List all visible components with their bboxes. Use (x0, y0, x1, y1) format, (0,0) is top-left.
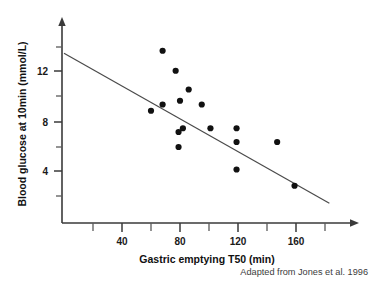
data-point (291, 183, 297, 189)
x-ticks-group (93, 223, 325, 232)
x-axis-title: Gastric emptying T50 (min) (139, 253, 274, 265)
data-point (186, 86, 192, 92)
data-point (175, 129, 181, 135)
data-points-group (148, 48, 298, 189)
y-axis-title: Blood glucose at 10min (mmol/L) (16, 41, 28, 206)
x-tick-label-40: 40 (116, 236, 128, 247)
axes-group (58, 17, 359, 227)
y-tick-label-4: 4 (42, 166, 48, 177)
regression-trendline (64, 53, 329, 203)
data-point (233, 139, 239, 145)
data-point (274, 139, 280, 145)
data-point (173, 68, 179, 74)
data-point (233, 166, 239, 172)
data-point (233, 125, 239, 131)
chart-figure: 12 8 4 40 80 120 160 Gastric em (0, 0, 374, 288)
y-tick-label-12: 12 (37, 66, 49, 77)
data-point (177, 98, 183, 104)
y-ticks-group (54, 47, 62, 196)
data-point (199, 101, 205, 107)
x-axis-arrow-icon (350, 219, 359, 226)
data-point (160, 48, 166, 54)
data-point (175, 144, 181, 150)
x-tick-label-80: 80 (174, 236, 186, 247)
x-tick-label-120: 120 (230, 236, 247, 247)
source-caption: Adapted from Jones et al. 1996 (240, 267, 368, 277)
y-tick-labels-group: 12 8 4 (37, 66, 49, 177)
x-tick-labels-group: 40 80 120 160 (116, 236, 304, 247)
y-axis-arrow-icon (58, 17, 65, 26)
y-tick-label-8: 8 (42, 117, 48, 128)
data-point (148, 108, 154, 114)
scatter-plot: 12 8 4 40 80 120 160 Gastric em (0, 0, 374, 288)
x-tick-label-160: 160 (288, 236, 305, 247)
data-point (207, 125, 213, 131)
data-point (160, 101, 166, 107)
